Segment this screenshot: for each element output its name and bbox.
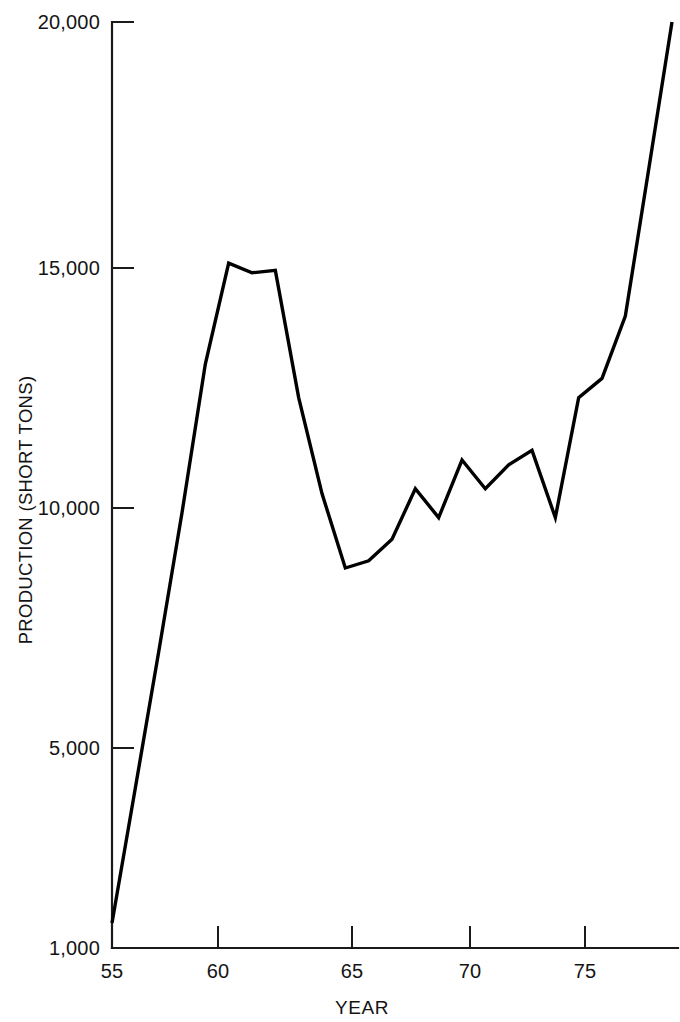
x-tick-label-65: 65 <box>341 960 364 982</box>
x-tick-label-55: 55 <box>101 960 124 982</box>
chart-background <box>0 0 680 1022</box>
chart-canvas: 20,000 15,000 10,000 5,000 1,000 55 60 6… <box>0 0 680 1022</box>
y-axis-title: PRODUCTION (SHORT TONS) <box>15 376 36 645</box>
y-tick-label-15000: 15,000 <box>38 257 100 279</box>
y-tick-label-1000: 1,000 <box>49 937 100 959</box>
x-tick-label-60: 60 <box>207 960 230 982</box>
y-tick-label-5000: 5,000 <box>49 737 100 759</box>
x-axis-title: YEAR <box>335 997 389 1018</box>
y-tick-label-20000: 20,000 <box>38 11 100 33</box>
x-tick-label-75: 75 <box>574 960 597 982</box>
y-tick-label-10000: 10,000 <box>38 497 100 519</box>
x-tick-label-70: 70 <box>459 960 482 982</box>
production-line-chart-figure: 20,000 15,000 10,000 5,000 1,000 55 60 6… <box>0 0 680 1022</box>
